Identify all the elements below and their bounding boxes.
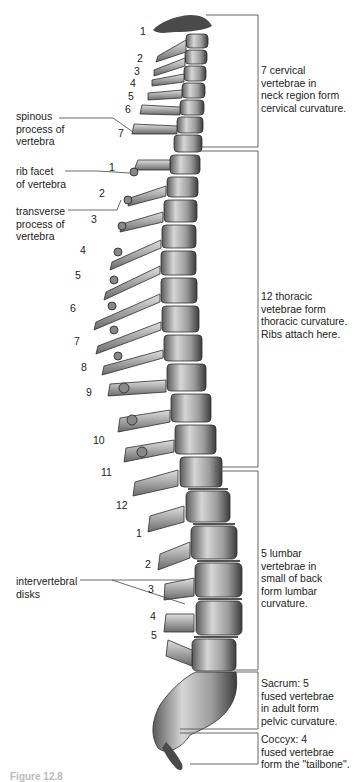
region-coccyx-description: Coccyx: 4 fused vertebrae form the "tail… (261, 733, 350, 771)
lumbar-number-2: 2 (145, 559, 151, 570)
cervical-number-2: 2 (137, 53, 143, 64)
cervical-number-4: 4 (130, 78, 136, 89)
figure-caption: Figure 12.8 (10, 771, 63, 782)
thoracic-number-1: 1 (109, 162, 115, 173)
label-spinous-process: spinous process of vertebra (16, 110, 64, 148)
lumbar-number-3: 3 (148, 584, 154, 595)
cervical-number-6: 6 (125, 104, 131, 115)
thoracic-number-10: 10 (93, 435, 105, 446)
thoracic-number-7: 7 (74, 336, 80, 347)
thoracic-number-9: 9 (86, 387, 92, 398)
thoracic-number-8: 8 (81, 362, 87, 373)
thoracic-number-11: 11 (101, 467, 112, 478)
lumbar-number-4: 4 (150, 611, 156, 622)
lumbar-number-5: 5 (151, 630, 157, 641)
lumbar-number-1: 1 (136, 528, 142, 539)
thoracic-number-12: 12 (116, 500, 128, 511)
label-transverse-process: transverse process of vertebra (16, 205, 65, 243)
region-lumbar-description: 5 lumbar vertebrae in small of back form… (261, 547, 322, 610)
cervical-number-5: 5 (128, 91, 134, 102)
region-cervical-description: 7 cervical vertebrae in neck region form… (261, 64, 346, 114)
region-thoracic-description: 12 thoracic vetebrae form thoracic curva… (261, 290, 347, 340)
sacrum (153, 672, 237, 751)
thoracic-number-3: 3 (91, 214, 97, 225)
label-rib-facet: rib facet of vertebra (16, 165, 66, 190)
region-sacrum-description: Sacrum: 5 fused vertebrae in adult form … (261, 677, 337, 727)
thoracic-number-2: 2 (99, 188, 105, 199)
cervical-number-1: 1 (140, 26, 146, 37)
label-intervertebral-disks: intervertebral disks (16, 575, 77, 600)
cervical-number-3: 3 (134, 66, 140, 77)
thoracic-number-6: 6 (70, 303, 76, 314)
cervical-number-7: 7 (118, 128, 124, 139)
thoracic-number-4: 4 (80, 245, 86, 256)
thoracic-number-5: 5 (75, 270, 81, 281)
atlas-vertebra (153, 15, 212, 33)
